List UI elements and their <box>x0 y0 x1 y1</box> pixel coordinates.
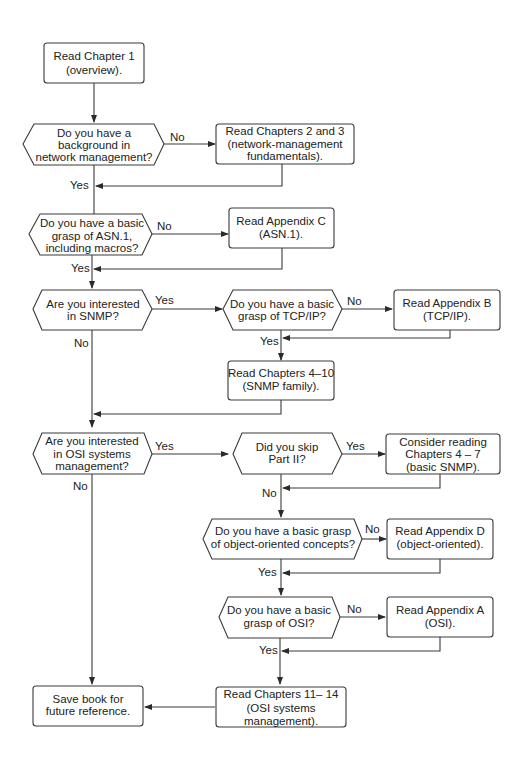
node-text: (basic SNMP). <box>406 461 480 473</box>
node-read-chapters-11-14: Read Chapters 11– 14 (OSI systems manage… <box>216 687 346 727</box>
node-text: of object-oriented concepts? <box>211 538 355 550</box>
edge-appa-return <box>282 637 440 651</box>
flowchart-canvas: Read Chapter 1 (overview). Do you have a… <box>0 0 530 764</box>
label-no: No <box>170 131 185 143</box>
node-read-chapter-1: Read Chapter 1 (overview). <box>44 43 144 83</box>
node-text: Do you have a <box>57 127 132 139</box>
node-text: Read Chapter 1 <box>53 50 134 62</box>
label-yes: Yes <box>155 440 174 452</box>
node-read-appendix-b: Read Appendix B (TCP/IP). <box>394 290 500 330</box>
node-read-appendix-d: Read Appendix D (object-oriented). <box>387 519 493 559</box>
node-text: Part II? <box>268 453 305 465</box>
label-no: No <box>347 295 362 307</box>
node-consider-chapters-4-7: Consider reading Chapters 4 – 7 (basic S… <box>386 434 500 474</box>
label-yes: Yes <box>346 440 365 452</box>
node-text: in OSI systems <box>53 448 131 460</box>
node-text: Read Appendix D <box>395 525 485 537</box>
node-text: (network-management <box>227 138 343 150</box>
label-no: No <box>73 480 88 492</box>
node-read-appendix-c: Read Appendix C (ASN.1). <box>229 208 334 248</box>
node-text: Consider reading <box>399 436 487 448</box>
edge-appb-return <box>283 330 450 338</box>
node-text: (ASN.1). <box>259 228 303 240</box>
label-yes: Yes <box>259 644 278 656</box>
node-read-chapters-2-3: Read Chapters 2 and 3 (network-managemen… <box>216 124 354 164</box>
node-save-book: Save book for future reference. <box>33 686 143 726</box>
label-no: No <box>347 603 362 615</box>
node-text: background in <box>58 139 130 151</box>
label-no: No <box>157 220 172 232</box>
node-text: Are you interested <box>45 435 138 447</box>
node-text: in SNMP? <box>67 310 119 322</box>
node-text: including macros? <box>46 242 139 254</box>
node-text: (object-oriented). <box>397 538 484 550</box>
edge-ch4-7-return <box>283 474 440 488</box>
node-read-chapters-4-10: Read Chapters 4–10 (SNMP family). <box>228 361 334 400</box>
label-yes: Yes <box>70 179 89 191</box>
node-text: grasp of ASN.1, <box>52 230 133 242</box>
node-text: Save book for <box>53 693 124 705</box>
decision-asn1: Do you have a basic grasp of ASN.1, incl… <box>29 214 152 255</box>
label-yes: Yes <box>71 262 90 274</box>
decision-osi: Do you have a basic grasp of OSI? <box>219 597 340 638</box>
node-text: Read Appendix C <box>236 215 326 227</box>
label-yes: Yes <box>155 294 174 306</box>
label-yes: Yes <box>258 566 277 578</box>
label-no: No <box>262 487 277 499</box>
decision-snmp: Are you interested in SNMP? <box>33 290 152 330</box>
decision-osi-systems-management: Are you interested in OSI systems manage… <box>33 433 152 474</box>
node-text: Chapters 4 – 7 <box>405 448 480 460</box>
node-text: fundamentals). <box>247 150 323 162</box>
node-text: Do you have a basic grasp <box>215 525 351 537</box>
label-no: No <box>74 337 89 349</box>
node-text: future reference. <box>46 705 130 717</box>
node-text: grasp of OSI? <box>244 617 315 629</box>
edge-ch4-10-return <box>94 400 281 414</box>
decision-skip-part-2: Did you skip Part II? <box>233 433 342 474</box>
node-text: (OSI systems <box>246 702 315 714</box>
node-text: Do you have a basic <box>40 217 144 229</box>
node-text: Do you have a basic <box>230 298 334 310</box>
node-text: Read Appendix B <box>403 297 492 309</box>
node-text: management? <box>55 460 129 472</box>
node-text: (TCP/IP). <box>423 310 471 322</box>
edge-ch2-3-return <box>96 164 282 186</box>
node-text: (OSI). <box>425 617 456 629</box>
node-text: Read Appendix A <box>396 604 485 616</box>
node-text: network management? <box>36 151 153 163</box>
node-text: (overview). <box>66 64 122 76</box>
node-text: Read Chapters 2 and 3 <box>226 125 345 137</box>
decision-tcpip: Do you have a basic grasp of TCP/IP? <box>223 290 342 330</box>
node-text: Do you have a basic <box>227 604 331 616</box>
label-yes: Yes <box>260 335 279 347</box>
decision-object-oriented: Do you have a basic grasp of object-orie… <box>203 519 362 559</box>
node-read-appendix-a: Read Appendix A (OSI). <box>387 597 493 637</box>
decision-network-management: Do you have a background in network mana… <box>23 124 164 165</box>
node-text: Are you interested <box>46 298 139 310</box>
label-no: No <box>365 523 380 535</box>
node-text: Read Chapters 4–10 <box>228 367 334 379</box>
node-text: Did you skip <box>256 441 319 453</box>
node-text: management). <box>244 715 318 727</box>
node-text: Read Chapters 11– 14 <box>224 688 339 700</box>
node-text: (SNMP family). <box>242 380 319 392</box>
node-text: grasp of TCP/IP? <box>238 310 326 322</box>
edge-appd-return <box>283 559 440 573</box>
